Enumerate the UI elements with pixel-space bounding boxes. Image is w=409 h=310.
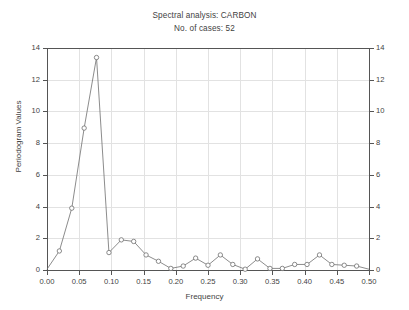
data-point-marker bbox=[268, 266, 272, 270]
data-point-marker bbox=[193, 256, 197, 260]
data-point-marker bbox=[292, 262, 296, 266]
data-point-marker bbox=[144, 253, 148, 257]
data-point-marker bbox=[231, 262, 235, 266]
data-point-marker bbox=[218, 253, 222, 257]
data-point-marker bbox=[57, 249, 61, 253]
spectral-analysis-chart: Spectral analysis: CARBON No. of cases: … bbox=[0, 0, 409, 310]
data-point-marker bbox=[354, 264, 358, 268]
data-point-marker bbox=[107, 250, 111, 254]
periodogram-markers bbox=[57, 55, 359, 271]
data-point-marker bbox=[181, 264, 185, 268]
data-point-marker bbox=[169, 266, 173, 270]
data-point-marker bbox=[342, 263, 346, 267]
data-point-marker bbox=[156, 259, 160, 263]
periodogram-line bbox=[47, 58, 369, 270]
data-point-marker bbox=[94, 55, 98, 59]
data-point-marker bbox=[70, 206, 74, 210]
x-axis-title: Frequency bbox=[0, 292, 409, 301]
data-point-marker bbox=[243, 267, 247, 271]
data-point-marker bbox=[255, 257, 259, 261]
y-axis-title: Periodogram Values bbox=[14, 67, 23, 207]
data-point-marker bbox=[119, 238, 123, 242]
data-point-marker bbox=[206, 263, 210, 267]
data-point-marker bbox=[317, 253, 321, 257]
series-layer bbox=[0, 0, 409, 310]
data-point-marker bbox=[330, 262, 334, 266]
data-point-marker bbox=[305, 262, 309, 266]
data-point-marker bbox=[131, 239, 135, 243]
data-point-marker bbox=[82, 126, 86, 130]
data-point-marker bbox=[280, 266, 284, 270]
